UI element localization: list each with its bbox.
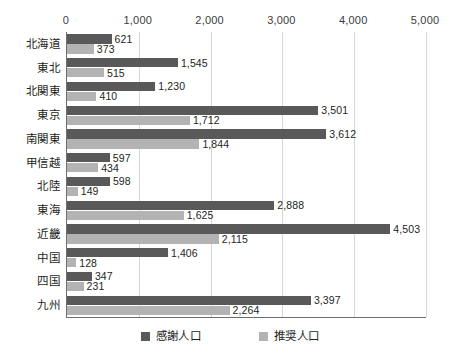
bar-group-0: 1,406 [67, 248, 426, 257]
bar[interactable] [67, 116, 190, 125]
x-tick-label-3000: 3,000 [267, 14, 296, 26]
bar-value-label: 434 [101, 162, 119, 173]
bar[interactable] [67, 68, 104, 77]
bar-group-1: 373 [67, 44, 426, 53]
category-label-4: 南関東 [26, 132, 60, 145]
legend-item-0[interactable]: 感謝人口 [141, 330, 201, 342]
bar[interactable] [67, 258, 76, 267]
legend-label: 推奨人口 [274, 330, 319, 342]
bar-value-label: 410 [99, 91, 117, 102]
bar[interactable] [67, 282, 84, 291]
category-label-5: 甲信越 [26, 156, 60, 169]
legend-swatch-icon [259, 332, 268, 341]
category-row: 東北1,545515 [67, 56, 426, 80]
bar-group-0: 347 [67, 272, 426, 281]
bar[interactable] [67, 129, 326, 138]
chart-legend: 感謝人口推奨人口 [0, 330, 460, 342]
bar-value-label: 373 [97, 43, 115, 54]
bar[interactable] [67, 306, 230, 315]
category-row: 近畿4,5032,115 [67, 222, 426, 246]
bar-value-label: 4,503 [393, 223, 420, 234]
bar-value-label: 128 [79, 257, 97, 268]
x-tick-label-0: 0 [63, 14, 69, 26]
bar[interactable] [67, 44, 94, 53]
bar-group-0: 3,501 [67, 106, 426, 115]
bar-value-label: 1,545 [181, 57, 208, 68]
bar-group-0: 621 [67, 34, 426, 43]
bar-value-label: 3,397 [314, 295, 341, 306]
bar-value-label: 1,406 [171, 247, 198, 258]
category-row: 九州3,3972,264 [67, 293, 426, 317]
category-label-7: 東海 [37, 204, 60, 217]
bar[interactable] [67, 234, 219, 243]
bar-group-1: 2,264 [67, 306, 426, 315]
bar-group-0: 3,612 [67, 129, 426, 138]
bar-group-1: 128 [67, 258, 426, 267]
bar-group-1: 1,712 [67, 116, 426, 125]
category-row: 北関東1,230410 [67, 80, 426, 104]
category-row: 東海2,8881,625 [67, 198, 426, 222]
bar[interactable] [67, 139, 199, 148]
bar-value-label: 621 [115, 33, 133, 44]
bar-group-0: 1,230 [67, 82, 426, 91]
category-label-9: 中国 [37, 251, 60, 264]
category-label-10: 四国 [37, 275, 60, 288]
bar-group-1: 231 [67, 282, 426, 291]
category-label-6: 北陸 [37, 180, 60, 193]
legend-label: 感謝人口 [156, 330, 201, 342]
bar[interactable] [67, 163, 98, 172]
bar-value-label: 149 [81, 186, 99, 197]
category-label-8: 近畿 [37, 227, 60, 240]
bar-value-label: 1,712 [193, 115, 220, 126]
category-label-0: 北海道 [26, 37, 60, 50]
plot-area: 北海道621373東北1,545515北関東1,230410東京3,5011,7… [66, 32, 426, 318]
bar-group-1: 434 [67, 163, 426, 172]
x-tick-label-4000: 4,000 [339, 14, 368, 26]
x-tick-label-1000: 1,000 [124, 14, 153, 26]
category-row: 中国1,406128 [67, 246, 426, 270]
bar-value-label: 1,230 [158, 81, 185, 92]
category-label-11: 九州 [37, 299, 60, 312]
category-row: 南関東3,6121,844 [67, 127, 426, 151]
category-label-2: 北関東 [26, 85, 60, 98]
bar-value-label: 515 [107, 67, 125, 78]
bar-group-0: 598 [67, 177, 426, 186]
bar[interactable] [67, 211, 184, 220]
bar-group-1: 149 [67, 187, 426, 196]
bar[interactable] [67, 92, 96, 101]
bar-chart: 01,0002,0003,0004,0005,000 北海道621373東北1,… [0, 0, 460, 357]
category-label-3: 東京 [37, 109, 60, 122]
bar-value-label: 3,612 [329, 128, 356, 139]
bar[interactable] [67, 296, 311, 305]
bar-value-label: 3,501 [321, 105, 348, 116]
bar-value-label: 1,844 [202, 138, 229, 149]
bar[interactable] [67, 201, 274, 210]
bar-value-label: 2,264 [233, 305, 260, 316]
legend-swatch-icon [141, 332, 150, 341]
x-tick-label-5000: 5,000 [411, 14, 440, 26]
category-row: 北陸598149 [67, 175, 426, 199]
gridline-5000 [426, 32, 427, 317]
bar-group-0: 2,888 [67, 201, 426, 210]
bar[interactable] [67, 187, 78, 196]
legend-item-1[interactable]: 推奨人口 [259, 330, 319, 342]
bar-value-label: 598 [113, 176, 131, 187]
bar-group-0: 597 [67, 153, 426, 162]
bar-value-label: 231 [87, 281, 105, 292]
category-label-1: 東北 [37, 61, 60, 74]
bar-group-1: 2,115 [67, 234, 426, 243]
bar-group-1: 410 [67, 92, 426, 101]
category-row: 甲信越597434 [67, 151, 426, 175]
bar-group-1: 1,844 [67, 139, 426, 148]
x-tick-label-2000: 2,000 [195, 14, 224, 26]
bar-value-label: 2,888 [277, 200, 304, 211]
bar-group-1: 515 [67, 68, 426, 77]
bar-group-1: 1,625 [67, 211, 426, 220]
bar-value-label: 2,115 [222, 233, 248, 244]
category-row: 東京3,5011,712 [67, 103, 426, 127]
category-row: 北海道621373 [67, 32, 426, 56]
category-row: 四国347231 [67, 270, 426, 294]
bar-value-label: 1,625 [187, 210, 214, 221]
